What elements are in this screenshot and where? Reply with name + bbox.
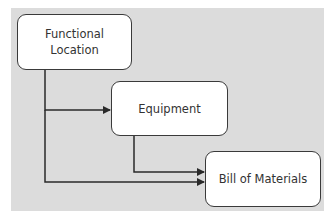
node-bill-of-materials-label: Bill of Materials	[219, 171, 308, 187]
node-bill-of-materials: Bill of Materials	[205, 151, 321, 207]
node-equipment: Equipment	[111, 81, 228, 136]
node-functional-location-label-line2: Location	[50, 42, 99, 58]
node-functional-location: Functional Location	[17, 14, 132, 70]
node-equipment-label: Equipment	[138, 101, 200, 117]
node-functional-location-label-line1: Functional	[45, 26, 104, 42]
edge-equipment-to-bill-of-materials	[134, 135, 204, 172]
edge-functional-location-to-equipment	[45, 69, 110, 110]
